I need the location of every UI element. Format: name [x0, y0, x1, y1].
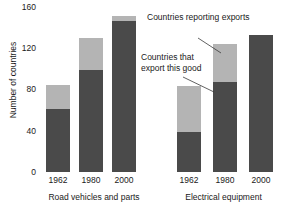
segment-export	[177, 132, 201, 172]
x-tick-road-2000: 2000	[104, 175, 144, 185]
y-tick-40: 40	[10, 127, 36, 135]
x-tick-electrical-1962: 1962	[169, 175, 209, 185]
annotation-countries-reporting-exports: Countries reporting exports	[147, 12, 252, 23]
x-tick-electrical-1980: 1980	[205, 175, 245, 185]
bar-chart: Number of countries 160 120 80 40 0	[0, 0, 286, 217]
bar-electrical-equipment-1980	[213, 44, 237, 172]
y-tick-160: 160	[10, 3, 36, 11]
segment-export	[213, 82, 237, 172]
x-tick-electrical-2000: 2000	[241, 175, 281, 185]
y-axis-ticks: 160 120 80 40 0	[8, 0, 36, 217]
y-tick-80: 80	[10, 85, 36, 93]
group-label-road-vehicles: Road vehicles and parts	[34, 192, 154, 202]
segment-export	[46, 109, 70, 172]
bar-road-vehicles-1962	[46, 85, 70, 172]
bar-electrical-equipment-2000	[249, 35, 273, 172]
segment-export	[112, 21, 136, 172]
segment-export	[79, 70, 103, 172]
bar-road-vehicles-2000	[112, 16, 136, 172]
annotation-countries-that-export-this-good: Countries that export this good	[141, 52, 203, 73]
group-label-electrical-equipment: Electrical equipment	[166, 192, 281, 202]
bar-road-vehicles-1980	[79, 38, 103, 172]
segment-export	[249, 35, 273, 172]
y-tick-120: 120	[10, 44, 36, 52]
plot-area	[40, 3, 286, 172]
bar-electrical-equipment-1962	[177, 86, 201, 172]
y-tick-0: 0	[10, 168, 36, 176]
